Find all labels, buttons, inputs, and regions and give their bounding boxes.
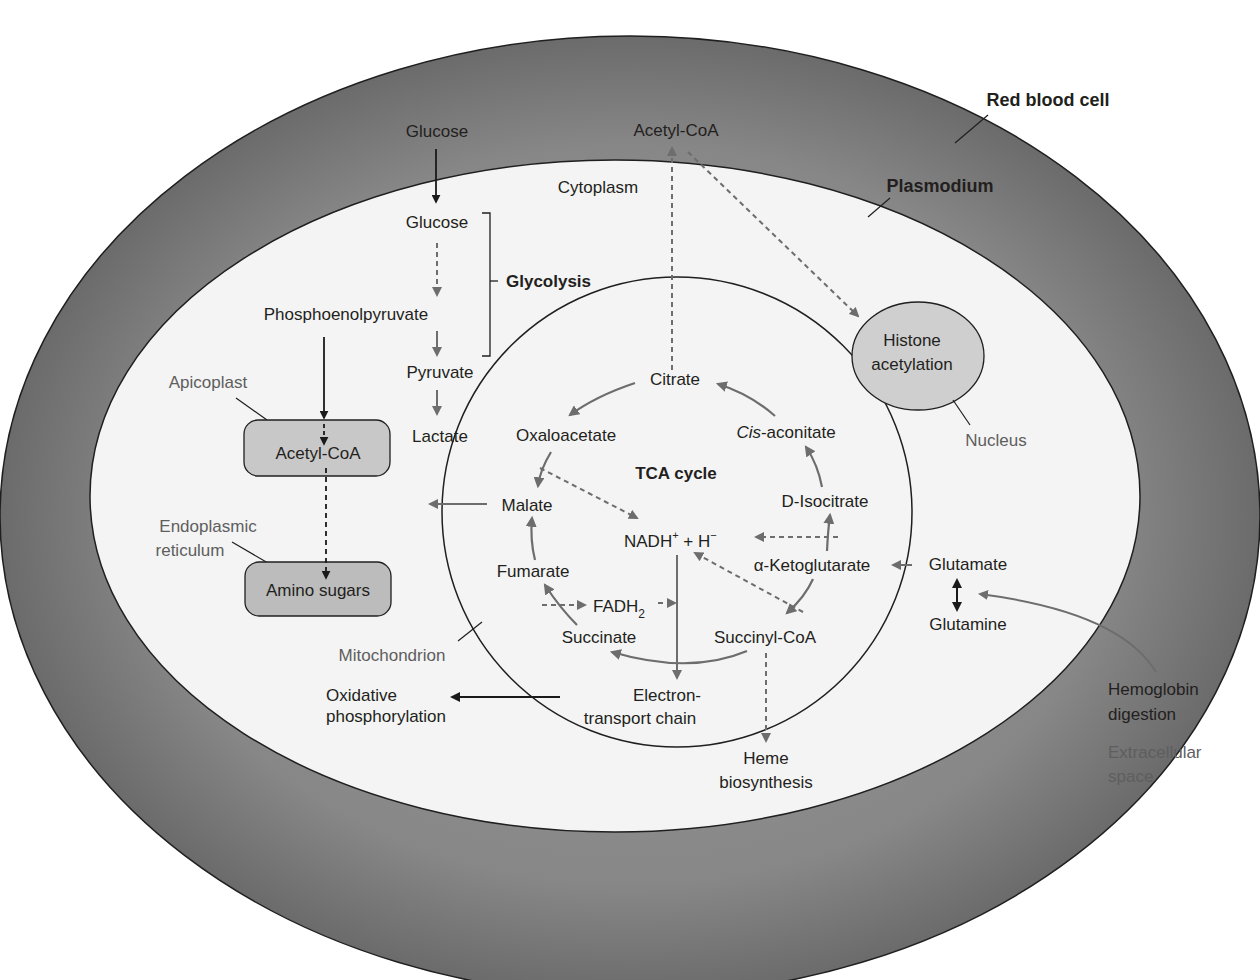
- histone-line2: acetylation: [871, 355, 952, 374]
- lactate: Lactate: [412, 427, 468, 446]
- succinate: Succinate: [562, 628, 637, 647]
- red-blood-cell-label: Red blood cell: [986, 90, 1109, 110]
- heme-line1: Heme: [743, 749, 788, 768]
- nadh-label: NADH+ + H−: [624, 529, 717, 551]
- cis-aconitate: Cis-aconitate: [736, 423, 835, 442]
- oxaloacetate: Oxaloacetate: [516, 426, 616, 445]
- d-isocitrate: D-Isocitrate: [782, 492, 869, 511]
- alpha-ketoglutarate: α-Ketoglutarate: [754, 556, 871, 575]
- citrate: Citrate: [650, 370, 700, 389]
- glutamine: Glutamine: [929, 615, 1006, 634]
- extracellular-line1: Extracellular: [1108, 743, 1202, 762]
- extracellular-line2: space: [1108, 767, 1153, 786]
- plasmodium-metabolism-diagram: Red blood cell Plasmodium Cytoplasm Gluc…: [0, 0, 1260, 980]
- phosphoenolpyruvate: Phosphoenolpyruvate: [264, 305, 428, 324]
- glutamate: Glutamate: [929, 555, 1007, 574]
- hemoglobin-line2: digestion: [1108, 705, 1176, 724]
- pyruvate: Pyruvate: [406, 363, 473, 382]
- glycolysis-label: Glycolysis: [506, 272, 591, 291]
- er-label-line2: reticulum: [156, 541, 225, 560]
- plasmodium-label: Plasmodium: [886, 176, 993, 196]
- oxphos-line2: phosphorylation: [326, 707, 446, 726]
- er-label-line1: Endoplasmic: [159, 517, 257, 536]
- tca-cycle-label: TCA cycle: [635, 464, 717, 483]
- apicoplast-label: Apicoplast: [169, 373, 248, 392]
- fumarate: Fumarate: [497, 562, 570, 581]
- histone-line1: Histone: [883, 331, 941, 350]
- etc-line2: transport chain: [584, 709, 696, 728]
- oxphos-line1: Oxidative: [326, 686, 397, 705]
- glucose-cytoplasm: Glucose: [406, 213, 468, 232]
- nucleus-label: Nucleus: [965, 431, 1026, 450]
- acetyl-coa-top: Acetyl-CoA: [633, 121, 719, 140]
- amino-sugars: Amino sugars: [266, 581, 370, 600]
- heme-line2: biosynthesis: [719, 773, 813, 792]
- cytoplasm-label: Cytoplasm: [558, 178, 638, 197]
- etc-line1: Electron-: [633, 686, 701, 705]
- mitochondrion-label: Mitochondrion: [339, 646, 446, 665]
- glucose-extracellular: Glucose: [406, 122, 468, 141]
- succinyl-coa: Succinyl-CoA: [714, 628, 817, 647]
- apicoplast-acetyl-coa: Acetyl-CoA: [275, 444, 361, 463]
- plasmodium-cell: [90, 160, 1140, 832]
- hemoglobin-line1: Hemoglobin: [1108, 680, 1199, 699]
- malate: Malate: [501, 496, 552, 515]
